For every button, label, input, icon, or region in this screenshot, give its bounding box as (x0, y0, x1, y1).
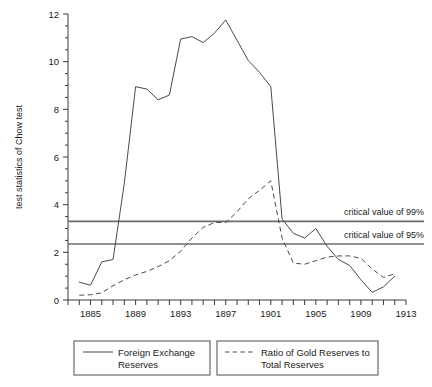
y-tick-label: 2 (54, 247, 59, 258)
x-tick-label: 1889 (125, 308, 146, 319)
y-axis-title: test statistics of Chow test (14, 104, 24, 209)
legend-label-foreign-exchange-line2: Reserves (118, 359, 158, 370)
x-tick-label: 1893 (170, 308, 191, 319)
y-tick-label: 6 (54, 152, 59, 163)
y-tick-label: 10 (48, 56, 59, 67)
y-tick-label: 4 (54, 199, 59, 210)
x-tick-label: 1885 (80, 308, 101, 319)
x-tick-label: 1913 (395, 308, 416, 319)
y-tick-label: 0 (54, 295, 59, 306)
legend-label-gold-ratio-line1: Ratio of Gold Reserves to (261, 347, 370, 358)
legend-label-foreign-exchange-line1: Foreign Exchange (118, 347, 195, 358)
x-tick-label: 1897 (215, 308, 236, 319)
chart-background (0, 0, 432, 387)
critical-value-label-0: critical value of 99% (344, 207, 424, 217)
x-tick-label: 1909 (350, 308, 371, 319)
legend-label-gold-ratio-line2: Total Reserves (261, 359, 324, 370)
x-tick-label: 1901 (260, 308, 281, 319)
y-axis-title-text: test statistics of Chow test (14, 104, 24, 209)
chow-test-chart: test statistics of Chow test 024681012 1… (0, 0, 432, 387)
critical-value-label-1: critical value of 95% (344, 230, 424, 240)
y-tick-label: 12 (48, 9, 59, 20)
y-tick-label: 8 (54, 104, 59, 115)
x-tick-label: 1905 (305, 308, 326, 319)
